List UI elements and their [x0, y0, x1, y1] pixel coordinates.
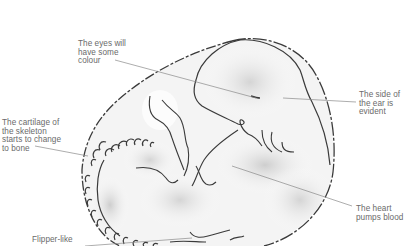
label-ear: The side of the ear is evident: [359, 91, 400, 117]
label-flipper: Flipper-like: [32, 236, 73, 245]
label-eyes: The eyes will have some colour: [78, 40, 126, 66]
label-heart: The heart pumps blood: [356, 205, 403, 222]
embryo-illustration: [0, 0, 412, 246]
embryo-diagram: The eyes will have some colour The side …: [0, 0, 412, 246]
label-cartilage: The cartilage of the skeleton starts to …: [2, 119, 61, 153]
